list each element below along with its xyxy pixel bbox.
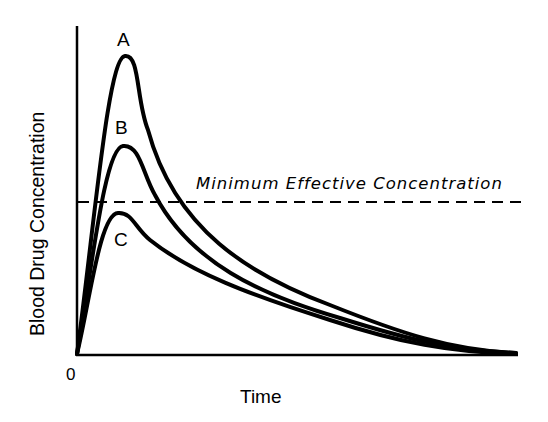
curve-c-label: C [114, 229, 128, 250]
curve-c [77, 213, 516, 354]
x-axis-label: Time [240, 386, 282, 407]
mec-label: Minimum Effective Concentration [196, 174, 503, 193]
curve-a-label: A [117, 29, 130, 50]
drug-concentration-chart: A B C Minimum Effective Concentration 0 … [0, 0, 548, 422]
y-axis-label: Blood Drug Concentration [26, 112, 48, 336]
origin-label: 0 [66, 365, 75, 384]
curve-b-label: B [115, 117, 128, 138]
